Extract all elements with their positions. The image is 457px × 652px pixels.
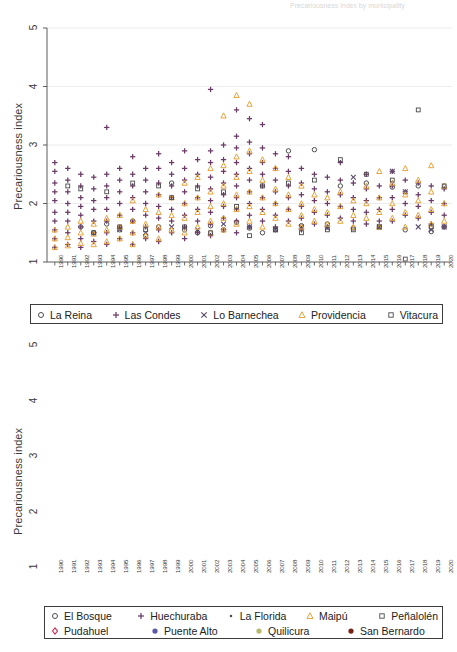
legend-item-puente-alto[interactable]: Puente Alto bbox=[149, 625, 253, 637]
x-tick-label: 1996 bbox=[135, 255, 142, 268]
legend-item-label: Providencia bbox=[311, 309, 366, 321]
legend-item-quilicura[interactable]: Quilicura bbox=[253, 625, 345, 637]
x-tick-label: 1992 bbox=[83, 560, 90, 573]
legend-marker-triangle bbox=[304, 610, 317, 622]
x-tick-label: 2018 bbox=[421, 560, 428, 573]
legend-item-las-condes[interactable]: Las Condes bbox=[110, 309, 199, 321]
legend-item-label: Las Condes bbox=[125, 309, 181, 321]
legend-item-maip-[interactable]: Maipú bbox=[304, 610, 376, 622]
legend-marker-dot bbox=[253, 625, 266, 637]
x-tick-label: 2007 bbox=[278, 255, 285, 268]
legend-lower: El BosqueHuechurabaLa FloridaMaipúPeñalo… bbox=[44, 606, 443, 639]
x-tick-label: 1990 bbox=[57, 560, 64, 573]
legend-item-label: Vitacura bbox=[400, 309, 438, 321]
x-tick-label: 2004 bbox=[239, 560, 246, 573]
x-tick-label: 1998 bbox=[161, 560, 168, 573]
legend-row: El BosqueHuechurabaLa FloridaMaipúPeñalo… bbox=[49, 608, 438, 623]
x-tick-label: 1992 bbox=[83, 255, 90, 268]
x-tick-label: 2012 bbox=[343, 560, 350, 573]
legend-item-pe-alol-n[interactable]: Peñalolén bbox=[376, 610, 438, 622]
x-tick-label: 2003 bbox=[226, 560, 233, 573]
legend-item-la-reina[interactable]: La Reina bbox=[35, 309, 110, 321]
legend-marker-square-open bbox=[385, 309, 398, 321]
x-tick-label: 1990 bbox=[57, 255, 64, 268]
legend-marker-triangle bbox=[296, 309, 309, 321]
x-tick-label: 2000 bbox=[187, 255, 194, 268]
x-tick-label: 1993 bbox=[96, 560, 103, 573]
x-tick-label: 2013 bbox=[356, 255, 363, 268]
legend-row: La ReinaLas CondesLo BarnecheaProvidenci… bbox=[35, 307, 438, 322]
legend-item-label: Huechuraba bbox=[150, 610, 207, 622]
x-tick-label: 1997 bbox=[148, 255, 155, 268]
legend-item-pudahuel[interactable]: Pudahuel bbox=[49, 625, 149, 637]
legend-item-san-bernardo[interactable]: San Bernardo bbox=[345, 625, 425, 637]
x-tick-label: 2015 bbox=[382, 255, 389, 268]
y-tick-label: 3 bbox=[28, 450, 39, 462]
x-tick-label: 1995 bbox=[122, 560, 129, 573]
legend-upper: La ReinaLas CondesLo BarnecheaProvidenci… bbox=[30, 304, 443, 324]
x-tick-label: 2005 bbox=[252, 560, 259, 573]
legend-marker-plus bbox=[110, 309, 123, 321]
x-tick-label: 1997 bbox=[148, 560, 155, 573]
x-tick-label: 2011 bbox=[330, 560, 337, 573]
figure-root: Precariousness index by municipality Pre… bbox=[0, 0, 457, 652]
y-tick-label: 4 bbox=[28, 80, 39, 92]
x-tick-label: 1991 bbox=[70, 255, 77, 268]
legend-marker-x bbox=[198, 309, 211, 321]
legend-item-label: Maipú bbox=[319, 610, 348, 622]
y-tick-label: 1 bbox=[28, 256, 39, 268]
x-tick-label: 2015 bbox=[382, 560, 389, 573]
x-tick-label: 1995 bbox=[122, 255, 129, 268]
legend-item-huechuraba[interactable]: Huechuraba bbox=[135, 610, 225, 622]
x-tick-label: 2004 bbox=[239, 255, 246, 268]
x-tick-label: 2009 bbox=[304, 560, 311, 573]
x-tick-label: 1993 bbox=[96, 255, 103, 268]
x-tick-label: 1991 bbox=[70, 560, 77, 573]
x-tick-label: 2020 bbox=[447, 560, 454, 573]
y-tick-label: 1 bbox=[28, 561, 39, 573]
legend-item-providencia[interactable]: Providencia bbox=[296, 309, 385, 321]
x-tick-label: 2001 bbox=[200, 255, 207, 268]
legend-item-label: Puente Alto bbox=[164, 625, 218, 637]
x-tick-label: 1998 bbox=[161, 255, 168, 268]
legend-marker-dot-small bbox=[225, 610, 238, 622]
x-tick-label: 2017 bbox=[408, 255, 415, 268]
x-tick-label: 1999 bbox=[174, 560, 181, 573]
x-tick-label: 2000 bbox=[187, 560, 194, 573]
x-tick-label: 1994 bbox=[109, 560, 116, 573]
x-tick-label: 2008 bbox=[291, 560, 298, 573]
x-tick-label: 2006 bbox=[265, 560, 272, 573]
x-tick-label: 2018 bbox=[421, 255, 428, 268]
x-tick-label: 2014 bbox=[369, 560, 376, 573]
legend-item-la-florida[interactable]: La Florida bbox=[225, 610, 304, 622]
legend-item-lo-barnechea[interactable]: Lo Barnechea bbox=[198, 309, 296, 321]
x-tick-label: 2013 bbox=[356, 560, 363, 573]
chart-panel-upper: Precariousness index bbox=[0, 0, 457, 330]
legend-marker-dot bbox=[149, 625, 162, 637]
legend-item-label: Peñalolén bbox=[391, 610, 438, 622]
legend-item-vitacura[interactable]: Vitacura bbox=[385, 309, 438, 321]
legend-item-el-bosque[interactable]: El Bosque bbox=[49, 610, 135, 622]
x-tick-label: 2017 bbox=[408, 560, 415, 573]
scatter-plot-upper bbox=[0, 0, 457, 330]
x-tick-label: 2019 bbox=[434, 560, 441, 573]
x-tick-label: 2005 bbox=[252, 255, 259, 268]
y-tick-label: 4 bbox=[28, 394, 39, 406]
x-tick-label: 2002 bbox=[213, 560, 220, 573]
y-tick-label: 3 bbox=[28, 139, 39, 151]
chart-panel-lower: Precariousness index bbox=[0, 330, 457, 652]
x-tick-label: 2019 bbox=[434, 255, 441, 268]
x-tick-label: 2010 bbox=[317, 255, 324, 268]
x-tick-label: 2007 bbox=[278, 560, 285, 573]
legend-marker-diamond-open bbox=[49, 625, 62, 637]
scatter-plot-lower bbox=[0, 330, 457, 652]
legend-row: PudahuelPuente AltoQuilicuraSan Bernardo bbox=[49, 623, 438, 638]
legend-marker-square-open bbox=[376, 610, 389, 622]
legend-marker-plus bbox=[135, 610, 148, 622]
legend-item-label: La Florida bbox=[240, 610, 287, 622]
legend-marker-circle-open bbox=[35, 309, 48, 321]
x-tick-label: 2020 bbox=[447, 255, 454, 268]
y-tick-label: 5 bbox=[28, 339, 39, 351]
legend-item-label: La Reina bbox=[50, 309, 92, 321]
x-tick-label: 1994 bbox=[109, 255, 116, 268]
